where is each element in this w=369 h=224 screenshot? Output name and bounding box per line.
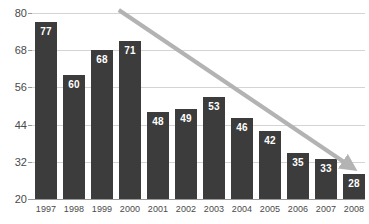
x-axis-tick-label: 2005	[256, 204, 284, 214]
x-axis-tick-label: 1998	[60, 204, 88, 214]
bar[interactable]	[203, 97, 225, 199]
bar-value-label: 46	[231, 122, 253, 133]
x-axis-tick-label: 2008	[340, 204, 368, 214]
y-axis-labels: 203244566880	[0, 0, 30, 224]
bar-value-label: 71	[119, 45, 141, 56]
bar-slot[interactable]: 77	[32, 13, 60, 199]
bar-slot[interactable]: 60	[60, 13, 88, 199]
bar[interactable]	[63, 75, 85, 199]
chart-title-clipped	[0, 0, 369, 5]
bar-slot[interactable]: 49	[172, 13, 200, 199]
bar-slot[interactable]: 28	[340, 13, 368, 199]
bar[interactable]	[35, 22, 57, 199]
bar-value-label: 28	[343, 178, 365, 189]
bar-value-label: 60	[63, 79, 85, 90]
bar-series: 776068714849534642353328	[32, 13, 365, 199]
bar[interactable]	[119, 41, 141, 199]
bar-value-label: 68	[91, 54, 113, 65]
bar-slot[interactable]: 33	[312, 13, 340, 199]
bar-slot[interactable]: 53	[200, 13, 228, 199]
x-axis-tick-label: 1999	[88, 204, 116, 214]
x-axis-line	[32, 199, 365, 200]
x-axis-tick-label: 2006	[284, 204, 312, 214]
bar-slot[interactable]: 48	[144, 13, 172, 199]
bar-chart: 203244566880 776068714849534642353328 19…	[0, 0, 369, 224]
x-axis-tick-label: 2007	[312, 204, 340, 214]
bar-slot[interactable]: 46	[228, 13, 256, 199]
y-axis-tick-label: 44	[15, 119, 27, 131]
bar-slot[interactable]: 35	[284, 13, 312, 199]
bar-value-label: 33	[315, 163, 337, 174]
x-axis-tick-label: 2003	[200, 204, 228, 214]
bar-value-label: 42	[259, 135, 281, 146]
x-axis-tick-label: 1997	[32, 204, 60, 214]
x-axis-tick-label: 2002	[172, 204, 200, 214]
bar-slot[interactable]: 42	[256, 13, 284, 199]
bar-value-label: 48	[147, 116, 169, 127]
bar-value-label: 77	[35, 26, 57, 37]
y-axis-tick-label: 20	[15, 193, 27, 205]
x-axis-tick-label: 2004	[228, 204, 256, 214]
bar[interactable]	[91, 50, 113, 199]
bar-slot[interactable]: 68	[88, 13, 116, 199]
bar-value-label: 35	[287, 157, 309, 168]
bar-slot[interactable]: 71	[116, 13, 144, 199]
bar-value-label: 49	[175, 113, 197, 124]
y-axis-tick-label: 32	[15, 156, 27, 168]
x-axis-labels: 1997199819992000200120022003200420052006…	[32, 201, 365, 221]
plot-area: 776068714849534642353328	[32, 13, 365, 199]
x-axis-tick-label: 2000	[116, 204, 144, 214]
y-axis-tick-label: 80	[15, 7, 27, 19]
bar-value-label: 53	[203, 101, 225, 112]
y-axis-tick-label: 56	[15, 81, 27, 93]
x-axis-tick-label: 2001	[144, 204, 172, 214]
y-axis-tick-label: 68	[15, 44, 27, 56]
